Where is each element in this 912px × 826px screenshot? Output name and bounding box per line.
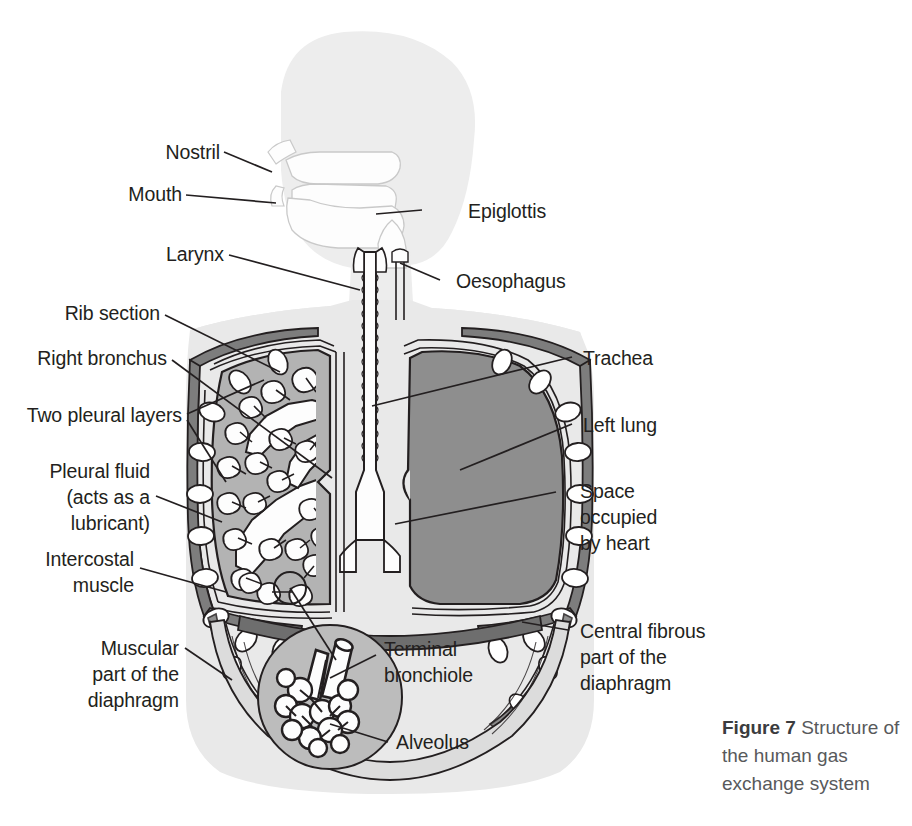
label-larynx: Larynx [40, 241, 224, 267]
label-rib-section: Rib section [10, 300, 160, 326]
label-space-occupied-by-heart: Space occupied by heart [580, 478, 740, 556]
label-central-fibrous-part-of-diaphragm: Central fibrous part of the diaphragm [580, 618, 760, 696]
label-oesophagus: Oesophagus [456, 268, 656, 294]
figure-caption: Figure 7 Structure of the human gas exch… [722, 714, 908, 798]
label-two-pleural-layers: Two pleural layers [0, 402, 182, 428]
figure-caption-number: Figure 7 [722, 717, 796, 738]
label-nostril: Nostril [30, 139, 220, 165]
label-epiglottis: Epiglottis [468, 198, 648, 224]
label-intercostal-muscle: Intercostal muscle [0, 546, 134, 598]
label-alveolus: Alveolus [396, 729, 556, 755]
label-pleural-fluid: Pleural fluid (acts as a lubricant) [0, 458, 150, 536]
label-right-bronchus: Right bronchus [0, 345, 167, 371]
label-trachea: Trachea [583, 345, 743, 371]
label-terminal-bronchiole: Terminal bronchiole [384, 636, 554, 688]
figure-container: Nostril Mouth Larynx Rib section Right b… [0, 0, 912, 826]
label-muscular-part-of-diaphragm: Muscular part of the diaphragm [0, 635, 179, 713]
alveoli-inset [258, 625, 402, 769]
right-lung [212, 350, 333, 606]
label-mouth: Mouth [20, 181, 182, 207]
label-left-lung: Left lung [583, 412, 743, 438]
